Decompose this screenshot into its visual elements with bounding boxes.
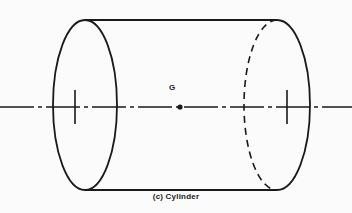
figure-caption: (c) Cylinder (0, 192, 352, 201)
centroid-point (177, 104, 182, 109)
centroid-label: G (169, 84, 175, 92)
cylinder-figure: G (c) Cylinder (0, 0, 352, 213)
near-ellipse (53, 20, 117, 190)
far-ellipse-visible-arc (277, 20, 310, 190)
far-ellipse-hidden-arc (244, 20, 277, 190)
cylinder-drawing (0, 0, 352, 213)
